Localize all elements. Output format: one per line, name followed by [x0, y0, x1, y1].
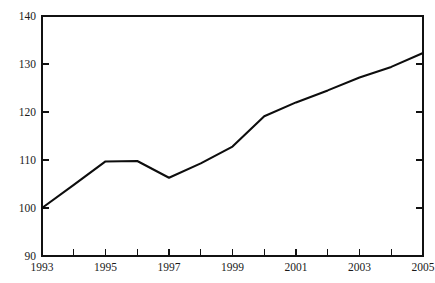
- x-tick-label-2001: 2001: [285, 261, 308, 273]
- y-tick-label-110: 110: [19, 154, 36, 166]
- y-tick-label-130: 130: [19, 58, 37, 70]
- x-tick-label-1995: 1995: [94, 261, 117, 273]
- y-tick-label-140: 140: [19, 10, 37, 22]
- x-tick-label-1997: 1997: [158, 261, 181, 273]
- chart-background: [0, 0, 435, 283]
- chart-canvas: 90100110120130140 1993199519971999200120…: [0, 0, 435, 283]
- x-tick-label-2005: 2005: [412, 261, 435, 273]
- y-tick-label-100: 100: [19, 202, 37, 214]
- x-tick-label-1999: 1999: [221, 261, 244, 273]
- x-tick-label-1993: 1993: [31, 261, 54, 273]
- line-chart: 90100110120130140 1993199519971999200120…: [0, 0, 435, 283]
- y-tick-label-120: 120: [19, 106, 37, 118]
- x-tick-label-2003: 2003: [348, 261, 371, 273]
